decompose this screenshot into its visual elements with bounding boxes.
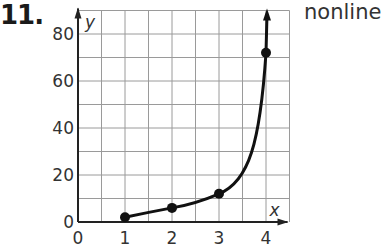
x-tick-label: 0 (73, 228, 84, 248)
data-point (214, 189, 224, 199)
y-axis-arrow-icon (75, 8, 82, 19)
axes (75, 8, 289, 226)
x-tick-label: 2 (167, 228, 178, 248)
tick-labels: yx01234020406080 (52, 12, 280, 249)
data-point (120, 212, 130, 222)
y-tick-label: 40 (52, 118, 74, 138)
y-tick-label: 80 (52, 24, 74, 44)
x-axis-label: x (269, 200, 281, 220)
grid (78, 11, 290, 223)
chart: yx01234020406080 (0, 0, 384, 250)
y-tick-label: 0 (63, 212, 74, 232)
x-tick-label: 3 (214, 228, 225, 248)
data-point (261, 48, 271, 58)
data-point (167, 203, 177, 213)
x-tick-label: 1 (120, 228, 131, 248)
y-tick-label: 60 (52, 71, 74, 91)
x-tick-label: 4 (261, 228, 272, 248)
y-tick-label: 20 (52, 165, 74, 185)
y-axis-label: y (84, 12, 96, 32)
